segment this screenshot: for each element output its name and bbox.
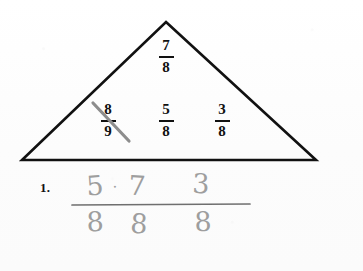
handwritten-numerator-2: 7: [123, 171, 150, 199]
handwritten-numerator-3: 3: [188, 170, 215, 198]
strikethrough-icon: [93, 103, 129, 141]
pencil-marks: [0, 0, 363, 271]
worksheet-page: 7 8 8 9 5 8 3 8 1. 5 · 7 3 8 8 8: [0, 0, 363, 271]
handwritten-numerator-1: 5: [81, 171, 109, 200]
handwritten-denominator-2: 8: [125, 209, 153, 238]
handwritten-denominator-3: 8: [190, 208, 217, 236]
handwritten-separator: ·: [107, 179, 123, 196]
handwritten-denominator-1: 8: [81, 207, 108, 235]
problem-number: 1.: [40, 180, 50, 196]
